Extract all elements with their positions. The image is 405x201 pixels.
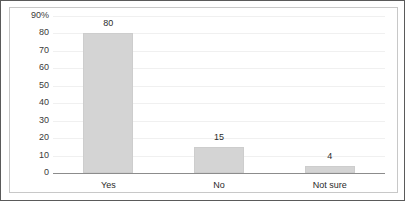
y-tick-label: 30: [3, 116, 49, 125]
y-tick-label: 60: [3, 63, 49, 72]
y-axis-labels: 0102030405060708090%: [1, 1, 49, 201]
y-tick-label: 40: [3, 98, 49, 107]
y-tick-label: 0: [3, 168, 49, 177]
category-label: No: [174, 181, 264, 190]
y-tick-label: 90%: [3, 11, 49, 20]
bar[interactable]: [305, 166, 355, 173]
bar[interactable]: [194, 147, 244, 173]
bar[interactable]: [83, 33, 133, 173]
y-tick-label: 50: [3, 81, 49, 90]
y-tick-label: 20: [3, 133, 49, 142]
chart-frame: 0102030405060708090% 80154 YesNoNot sure: [0, 0, 405, 201]
category-label: Not sure: [285, 181, 375, 190]
category-label: Yes: [63, 181, 153, 190]
bar-value-label: 4: [300, 152, 360, 161]
y-tick-label: 80: [3, 28, 49, 37]
grid-line: [53, 16, 385, 17]
bar-value-label: 15: [189, 133, 249, 142]
y-tick-label: 70: [3, 46, 49, 55]
x-axis-line: [53, 173, 385, 174]
bar-value-label: 80: [78, 19, 138, 28]
y-tick-label: 10: [3, 151, 49, 160]
